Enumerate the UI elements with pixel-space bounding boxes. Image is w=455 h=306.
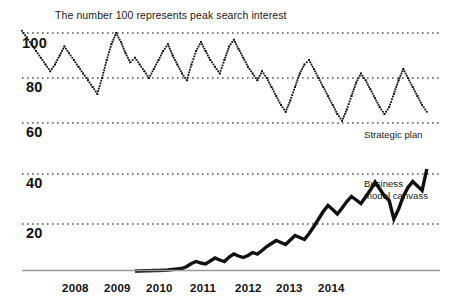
plot-canvas — [0, 0, 455, 306]
search-trends-figure: The number 100 represents peak search in… — [0, 0, 455, 306]
